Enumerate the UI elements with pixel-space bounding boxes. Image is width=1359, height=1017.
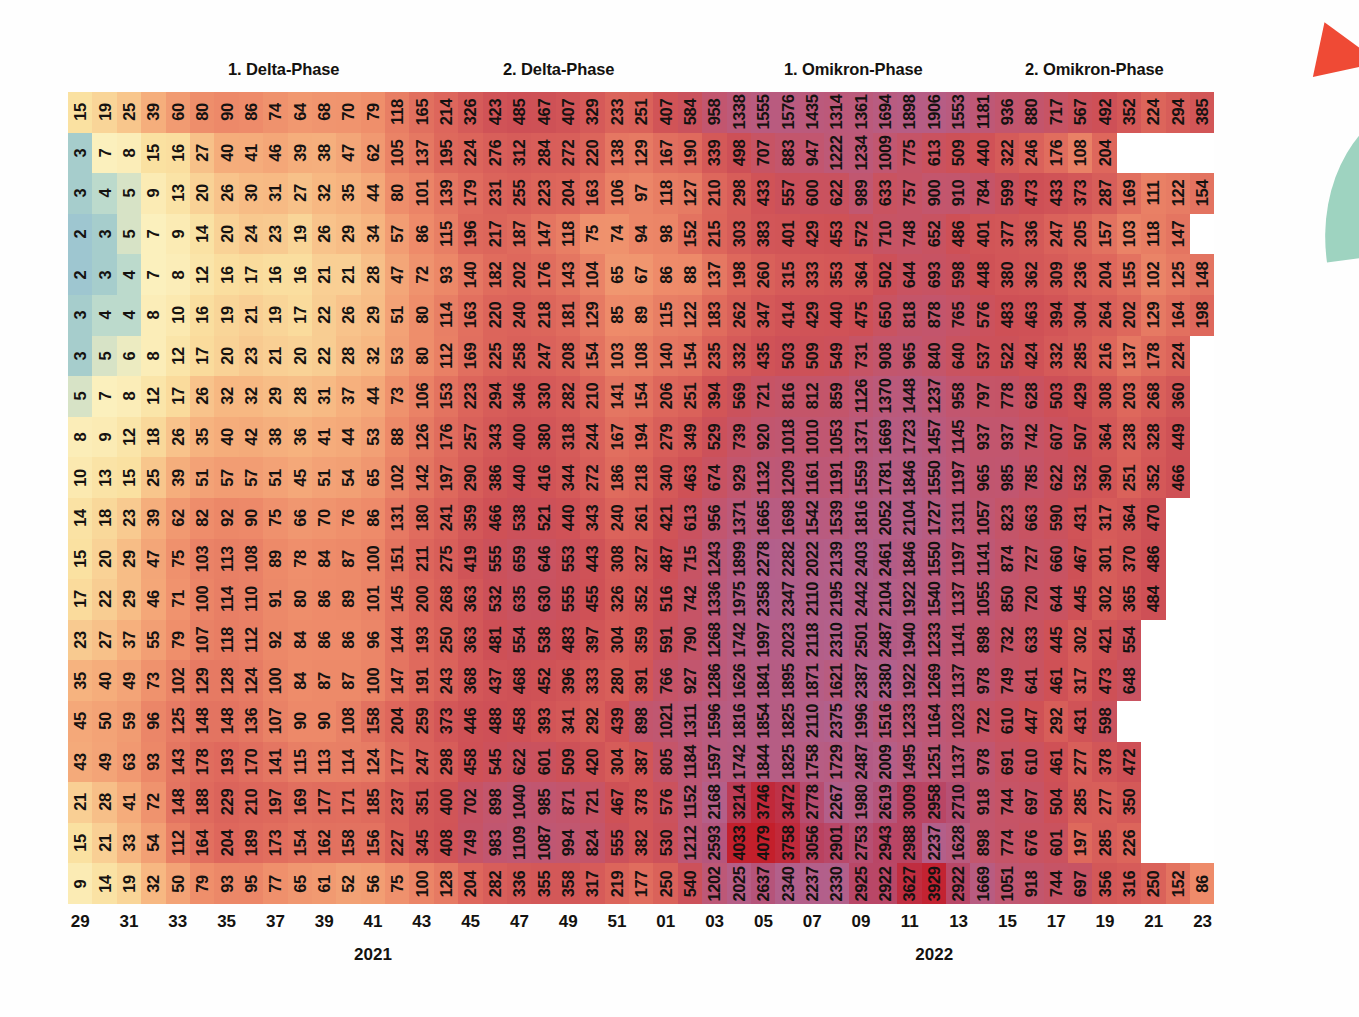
heatmap-cell[interactable] [1166,742,1190,783]
heatmap-cell[interactable]: 5 [92,336,116,377]
heatmap-cell[interactable]: 154 [678,336,702,377]
heatmap-cell[interactable]: 431 [1068,701,1092,742]
heatmap-cell[interactable]: 308 [605,539,629,580]
heatmap-cell[interactable]: 598 [1092,701,1116,742]
heatmap-cell[interactable]: 155 [1117,254,1141,295]
heatmap-cell[interactable]: 247 [531,336,555,377]
heatmap-cell[interactable]: 302 [1068,620,1092,661]
heatmap-cell[interactable]: 51 [385,295,409,336]
heatmap-cell[interactable]: 437 [483,660,507,701]
heatmap-cell[interactable]: 2387 [849,660,873,701]
heatmap-cell[interactable]: 193 [214,742,238,783]
heatmap-cell[interactable]: 1233 [897,701,921,742]
heatmap-cell[interactable]: 633 [1019,620,1043,661]
heatmap-cell[interactable]: 407 [653,92,677,133]
heatmap-cell[interactable]: 363 [458,620,482,661]
heatmap-cell[interactable]: 1742 [727,742,751,783]
heatmap-cell[interactable]: 75 [580,214,604,255]
heatmap-cell[interactable]: 268 [434,579,458,620]
heatmap-cell[interactable]: 110 [239,579,263,620]
heatmap-cell[interactable]: 3 [68,173,92,214]
heatmap-cell[interactable]: 122 [678,295,702,336]
heatmap-cell[interactable]: 100 [190,579,214,620]
heatmap-cell[interactable]: 351 [409,782,433,823]
heatmap-cell[interactable]: 601 [1044,823,1068,864]
heatmap-cell[interactable]: 78 [288,539,312,580]
heatmap-cell[interactable]: 4079 [751,823,775,864]
heatmap-cell[interactable]: 141 [605,376,629,417]
heatmap-cell[interactable]: 101 [409,173,433,214]
heatmap-cell[interactable]: 147 [1166,214,1190,255]
heatmap-cell[interactable]: 1371 [727,498,751,539]
heatmap-cell[interactable]: 380 [531,417,555,458]
heatmap-cell[interactable]: 37 [117,620,141,661]
heatmap-cell[interactable] [1190,579,1214,620]
heatmap-cell[interactable]: 440 [824,295,848,336]
heatmap-cell[interactable]: 1846 [897,457,921,498]
heatmap-cell[interactable]: 598 [946,254,970,295]
heatmap-cell[interactable]: 45 [288,457,312,498]
heatmap-cell[interactable]: 23 [117,498,141,539]
heatmap-cell[interactable]: 118 [653,173,677,214]
heatmap-cell[interactable]: 1846 [897,539,921,580]
heatmap-cell[interactable]: 1723 [897,417,921,458]
heatmap-cell[interactable]: 243 [434,660,458,701]
heatmap-cell[interactable]: 2925 [849,863,873,904]
heatmap-cell[interactable]: 2340 [775,863,799,904]
heatmap-cell[interactable]: 6 [117,336,141,377]
heatmap-cell[interactable]: 452 [531,660,555,701]
heatmap-cell[interactable]: 145 [385,579,409,620]
heatmap-cell[interactable]: 1023 [946,701,970,742]
heatmap-cell[interactable]: 101 [361,579,385,620]
heatmap-cell[interactable]: 824 [580,823,604,864]
heatmap-cell[interactable]: 279 [653,417,677,458]
heatmap-cell[interactable] [1190,823,1214,864]
heatmap-cell[interactable]: 691 [995,742,1019,783]
heatmap-cell[interactable]: 492 [1092,92,1116,133]
heatmap-cell[interactable]: 100 [409,863,433,904]
heatmap-cell[interactable]: 18 [92,498,116,539]
heatmap-cell[interactable]: 373 [434,701,458,742]
heatmap-cell[interactable]: 1899 [727,539,751,580]
heatmap-cell[interactable]: 186 [605,457,629,498]
heatmap-cell[interactable]: 32 [239,376,263,417]
heatmap-cell[interactable]: 217 [483,214,507,255]
heatmap-cell[interactable]: 176 [531,254,555,295]
heatmap-cell[interactable]: 178 [190,742,214,783]
heatmap-cell[interactable]: 1457 [922,417,946,458]
heatmap-cell[interactable]: 240 [605,498,629,539]
heatmap-cell[interactable]: 532 [483,579,507,620]
heatmap-cell[interactable]: 947 [800,133,824,174]
heatmap-cell[interactable] [1190,417,1214,458]
heatmap-cell[interactable]: 840 [922,336,946,377]
heatmap-cell[interactable]: 163 [580,173,604,214]
heatmap-cell[interactable]: 2110 [800,701,824,742]
heatmap-cell[interactable]: 613 [678,498,702,539]
heatmap-cell[interactable]: 93 [214,863,238,904]
heatmap-cell[interactable]: 218 [531,295,555,336]
heatmap-cell[interactable]: 445 [1068,579,1092,620]
heatmap-cell[interactable]: 26 [190,376,214,417]
heatmap-cell[interactable]: 473 [1092,660,1116,701]
heatmap-cell[interactable]: 318 [556,417,580,458]
heatmap-cell[interactable]: 185 [361,782,385,823]
heatmap-cell[interactable]: 1202 [702,863,726,904]
heatmap-cell[interactable] [1141,823,1165,864]
heatmap-cell[interactable]: 247 [409,742,433,783]
heatmap-cell[interactable]: 727 [1019,539,1043,580]
heatmap-cell[interactable] [1166,701,1190,742]
heatmap-cell[interactable]: 461 [1044,742,1068,783]
heatmap-cell[interactable]: 22 [92,579,116,620]
heatmap-cell[interactable]: 141 [263,742,287,783]
heatmap-cell[interactable]: 202 [507,254,531,295]
heatmap-cell[interactable]: 79 [166,620,190,661]
heatmap-cell[interactable]: 956 [702,498,726,539]
heatmap-cell[interactable]: 84 [288,660,312,701]
heatmap-cell[interactable]: 391 [629,660,653,701]
heatmap-cell[interactable]: 898 [970,620,994,661]
heatmap-cell[interactable]: 177 [385,742,409,783]
heatmap-cell[interactable]: 1694 [873,92,897,133]
heatmap-cell[interactable]: 538 [507,498,531,539]
heatmap-cell[interactable]: 1055 [970,579,994,620]
heatmap-cell[interactable]: 90 [288,701,312,742]
